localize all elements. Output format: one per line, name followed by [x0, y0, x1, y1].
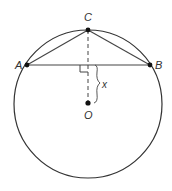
label-c: C — [84, 11, 92, 23]
circle-diagram: x C A B O — [0, 0, 172, 191]
chord-cb — [88, 30, 150, 65]
label-b: B — [155, 59, 162, 71]
label-a: A — [14, 59, 22, 71]
right-angle-marker — [80, 65, 88, 72]
point-c — [86, 28, 91, 33]
chord-ac — [27, 30, 88, 65]
point-o — [85, 100, 90, 105]
label-o: O — [84, 109, 93, 121]
brace-x — [94, 65, 100, 103]
point-b — [148, 63, 153, 68]
label-x: x — [101, 79, 108, 90]
point-a — [25, 63, 30, 68]
